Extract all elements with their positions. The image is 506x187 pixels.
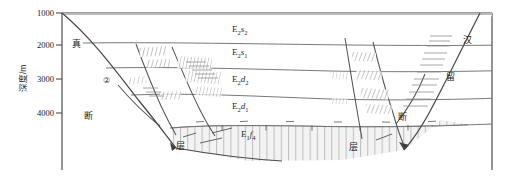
strat-ital-sub: 2 [244, 29, 247, 36]
axis-tick-label: 2000 [24, 40, 54, 50]
strat-ital-sub: 4 [252, 134, 255, 141]
strat-label-e2s2: E2s2 [232, 24, 248, 36]
annotation-duan-right: 断 [398, 113, 407, 122]
annotation-ceng-right: 层 [349, 143, 358, 152]
strat-label-e1f4: E1f4 [241, 129, 256, 141]
annotation-liu: 留 [446, 73, 455, 82]
annotation-duan-left: 断 [84, 112, 93, 121]
annotation-han: 汉 [463, 36, 472, 45]
strat-ital-sub: 1 [245, 106, 248, 113]
cross-section-canvas [0, 0, 506, 187]
strat-label-e2s1: E2s1 [232, 47, 248, 59]
strat-label-e2d1: E2d1 [232, 101, 249, 113]
strat-ital-sub: 1 [244, 52, 247, 59]
annotation-zhen: 真 [72, 40, 81, 49]
axis-tick-label: 3000 [24, 74, 54, 84]
axis-tick-label: 4000 [24, 108, 54, 118]
geological-cross-section-figure: 1000 2000 3000 4000 深度/m E2s2 E2s1 E2d2 … [0, 0, 506, 187]
axis-tick-label: 1000 [24, 8, 54, 18]
axis-ticks [56, 13, 62, 113]
strat-label-e2d2: E2d2 [232, 74, 249, 86]
annotation-ceng-left: 层 [176, 142, 185, 151]
strat-ital-sub: 2 [245, 79, 248, 86]
marker-circle-2: ② [103, 76, 110, 85]
axis-title-depth: 深度/m [16, 65, 28, 92]
